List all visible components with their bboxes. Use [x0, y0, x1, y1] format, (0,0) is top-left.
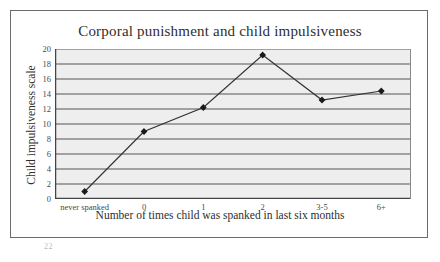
y-tick-label: 14 — [25, 90, 51, 99]
y-tick-label: 18 — [25, 60, 51, 69]
plot-area — [55, 49, 411, 199]
y-tick-label: 8 — [25, 135, 51, 144]
y-tick-label: 2 — [25, 180, 51, 189]
y-tick-label: 0 — [25, 195, 51, 204]
x-axis-label: Number of times child was spanked in las… — [11, 209, 429, 221]
y-tick-label: 6 — [25, 150, 51, 159]
y-tick-label: 12 — [25, 105, 51, 114]
line-chart-svg — [55, 49, 411, 199]
y-tick-label: 4 — [25, 165, 51, 174]
scan-artifact-text: 22 — [44, 242, 53, 251]
y-axis-tick-labels: 02468101214161820 — [21, 49, 51, 199]
figure-frame: Corporal punishment and child impulsiven… — [10, 10, 428, 238]
y-tick-label: 10 — [25, 120, 51, 129]
data-point-marker — [379, 88, 384, 93]
data-series-line — [85, 55, 382, 192]
chart-title: Corporal punishment and child impulsiven… — [11, 23, 429, 40]
y-tick-label: 20 — [25, 45, 51, 54]
y-tick-label: 16 — [25, 75, 51, 84]
